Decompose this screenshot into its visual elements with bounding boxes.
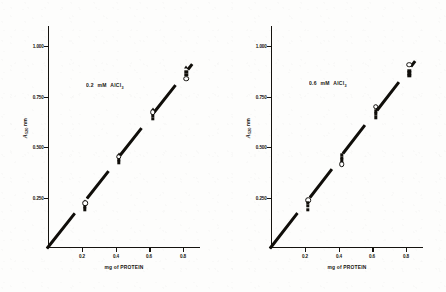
x-axis-line <box>271 247 423 248</box>
regression-line-segment <box>85 170 109 200</box>
regression-line-segment <box>119 127 143 157</box>
x-axis-tick <box>305 247 306 252</box>
annotation-compound: AlCl <box>333 80 344 86</box>
data-point-open-circle <box>184 76 190 82</box>
x-axis-tick <box>372 247 373 252</box>
figure-canvas: A520 nm mg of PROTEIN 0.2mMAlCl3 0.2500.… <box>0 0 446 292</box>
data-point-filled-triangle <box>184 66 188 69</box>
x-axis-tick <box>149 247 150 252</box>
data-point-open-circle <box>407 62 413 68</box>
y-axis-line <box>271 26 272 248</box>
x-axis-tick-label: 0.8 <box>403 253 409 259</box>
y-axis-tick-label: 0.500 <box>33 144 44 150</box>
data-point-filled-square <box>185 73 188 76</box>
regression-line-segment <box>376 81 400 111</box>
y-axis-symbol: A <box>21 134 29 138</box>
data-point-filled-square <box>340 159 343 162</box>
regression-line-segment <box>342 125 366 155</box>
data-point-filled-square <box>374 116 377 119</box>
y-axis-tick-label: 1.000 <box>256 43 267 49</box>
x-axis-tick <box>183 247 184 252</box>
regression-line-segment <box>308 168 332 198</box>
x-axis-tick-label: 0.6 <box>146 253 152 259</box>
x-axis-tick <box>116 247 117 252</box>
x-axis-tick-label: 0.2 <box>302 253 308 259</box>
y-axis-subscript: 520 <box>24 127 29 133</box>
annotation-concentration: 0.6 <box>309 80 317 86</box>
x-axis-tick-label: 0.8 <box>180 253 186 259</box>
panel-annotation-left: 0.2mMAlCl3 <box>86 82 124 90</box>
data-point-filled-square <box>306 208 309 211</box>
x-axis-tick-label: 0.2 <box>79 253 85 259</box>
data-point-filled-square <box>408 74 411 77</box>
x-axis-tick-label: 0.4 <box>336 253 342 259</box>
panel-annotation-right: 0.6mMAlCl3 <box>309 80 347 88</box>
x-axis-tick <box>406 247 407 252</box>
y-axis-tick-label: 0.250 <box>33 195 44 201</box>
x-axis-title: mg of PROTEIN <box>328 264 367 270</box>
x-axis-line <box>48 247 200 248</box>
x-axis-title: mg of PROTEIN <box>105 264 144 270</box>
y-axis-line <box>48 26 49 248</box>
y-axis-tick <box>44 46 49 47</box>
y-axis-tick-label: 0.750 <box>33 94 44 100</box>
regression-line-segment <box>153 84 177 114</box>
y-axis-tick-label: 0.250 <box>256 195 267 201</box>
y-axis-title: A520 nm <box>244 118 252 138</box>
data-point-open-circle <box>339 162 345 168</box>
y-axis-unit: nm <box>22 118 28 126</box>
y-axis-subscript: 520 <box>247 127 252 133</box>
annotation-unit: mM <box>320 80 329 86</box>
y-axis-tick-label: 1.000 <box>33 43 44 49</box>
x-axis-tick <box>339 247 340 252</box>
y-axis-tick-label: 0.500 <box>256 144 267 150</box>
annotation-unit: mM <box>97 82 106 88</box>
y-axis-tick <box>267 147 272 148</box>
plot-area-right: A520 nm mg of PROTEIN 0.6mMAlCl3 0.2500.… <box>271 26 423 248</box>
y-axis-tick <box>44 97 49 98</box>
y-axis-tick <box>267 46 272 47</box>
x-axis-tick <box>82 247 83 252</box>
y-axis-title: A520 nm <box>21 118 29 138</box>
chart-panel-right: A520 nm mg of PROTEIN 0.6mMAlCl3 0.2500.… <box>223 0 446 292</box>
data-point-filled-square <box>151 117 154 120</box>
y-axis-tick <box>267 198 272 199</box>
annotation-concentration: 0.2 <box>86 82 94 88</box>
x-axis-tick-label: 0.6 <box>369 253 375 259</box>
annotation-compound-subscript: 3 <box>344 83 346 88</box>
y-axis-tick-label: 0.750 <box>256 94 267 100</box>
annotation-compound-subscript: 3 <box>121 85 123 90</box>
y-axis-tick <box>44 147 49 148</box>
y-axis-symbol: A <box>244 134 252 138</box>
y-axis-tick <box>44 198 49 199</box>
y-axis-unit: nm <box>245 118 251 126</box>
data-point-filled-square <box>117 161 120 164</box>
y-axis-tick <box>267 97 272 98</box>
x-axis-tick-label: 0.4 <box>113 253 119 259</box>
annotation-compound: AlCl <box>110 82 121 88</box>
chart-panel-left: A520 nm mg of PROTEIN 0.2mMAlCl3 0.2500.… <box>0 0 223 292</box>
data-point-filled-square <box>83 208 86 211</box>
plot-area-left: A520 nm mg of PROTEIN 0.2mMAlCl3 0.2500.… <box>48 26 200 248</box>
regression-line-segment <box>46 212 76 249</box>
regression-line-segment <box>269 212 299 250</box>
